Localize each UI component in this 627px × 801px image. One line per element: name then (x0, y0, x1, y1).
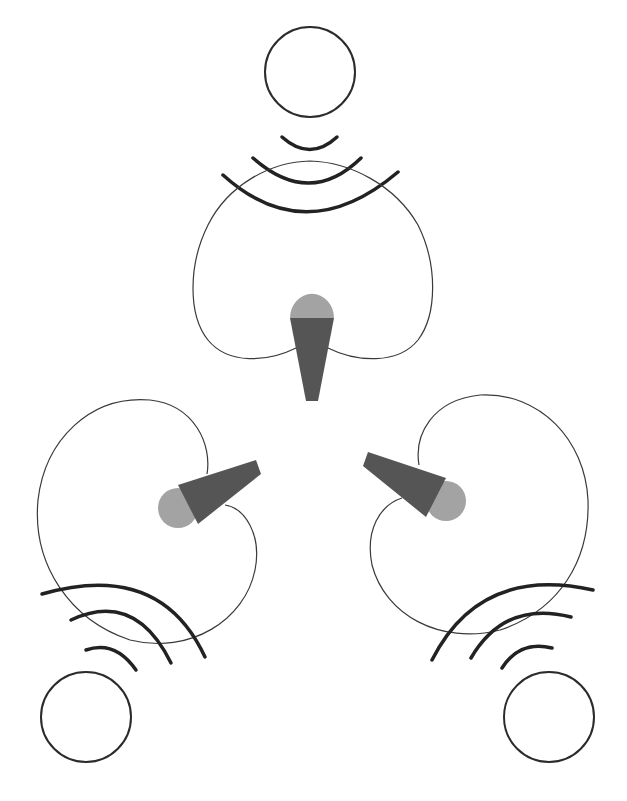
sound-source-bottom-left (41, 672, 131, 762)
sound-source-top (265, 27, 355, 117)
mic-head-icon (290, 294, 334, 318)
microphone-pickup-diagram (0, 0, 627, 801)
wave-arc-2 (253, 158, 361, 183)
left-group (37, 400, 261, 762)
microphone-right (363, 452, 466, 521)
sound-waves-top (223, 137, 398, 212)
cardioid-pattern-right (370, 395, 588, 634)
wave-arc-1 (502, 646, 552, 668)
sound-source-bottom-right (504, 672, 594, 762)
sound-waves-left (42, 585, 205, 670)
microphone-top (290, 294, 334, 401)
wave-arc-3 (432, 585, 593, 660)
mic-body-icon (290, 318, 334, 401)
wave-arc-1 (86, 648, 136, 671)
top-group (193, 27, 433, 401)
right-group (363, 395, 594, 762)
wave-arc-3 (223, 172, 398, 212)
cardioid-pattern-left (37, 400, 256, 644)
wave-arc-1 (282, 137, 337, 150)
sound-waves-right (432, 585, 593, 668)
